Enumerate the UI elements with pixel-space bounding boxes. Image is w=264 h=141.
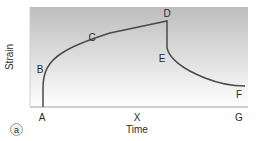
x-tick-a: A xyxy=(39,113,46,123)
y-axis-label: Strain xyxy=(4,44,15,70)
point-label-c: C xyxy=(88,33,95,43)
x-tick-g: G xyxy=(235,113,243,123)
point-label-f: F xyxy=(236,90,242,100)
plot-area xyxy=(30,7,248,107)
point-label-e: E xyxy=(159,54,166,64)
point-label-d: D xyxy=(163,9,170,19)
x-tick-x: X xyxy=(134,113,141,123)
point-label-b: B xyxy=(37,65,44,75)
panel-label-badge: a xyxy=(10,123,23,136)
x-axis-label: Time xyxy=(126,125,148,135)
